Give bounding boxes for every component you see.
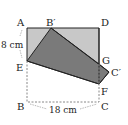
label-b: B	[17, 101, 24, 112]
label-b-prime: B′	[46, 17, 56, 28]
measurement-bc: 18 cm	[49, 105, 77, 115]
folded-rectangle-diagram: A B′ D E G C′ F B C 8 cm 18 cm	[0, 0, 128, 125]
label-a: A	[16, 17, 25, 28]
measurement-ae: 8 cm	[1, 40, 24, 50]
label-c: C	[101, 101, 109, 112]
label-c-prime: C′	[111, 67, 122, 78]
label-d: D	[101, 17, 109, 28]
label-e: E	[16, 62, 23, 73]
label-f: F	[101, 86, 108, 97]
label-g: G	[102, 55, 110, 66]
